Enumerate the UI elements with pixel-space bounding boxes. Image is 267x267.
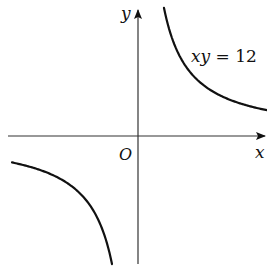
origin-label: O: [119, 145, 132, 164]
hyperbola-branch-third-quadrant: [12, 162, 112, 264]
equation-rhs: 12: [235, 46, 257, 66]
equation-equals: =: [210, 46, 235, 66]
hyperbola-diagram: y x O xy = 12: [0, 0, 267, 267]
x-axis-label: x: [255, 142, 265, 162]
equation-lhs: xy: [191, 46, 211, 66]
diagram-canvas: y x O xy = 12: [0, 0, 267, 267]
equation-label: xy = 12: [191, 46, 257, 66]
y-axis-label: y: [120, 3, 131, 23]
